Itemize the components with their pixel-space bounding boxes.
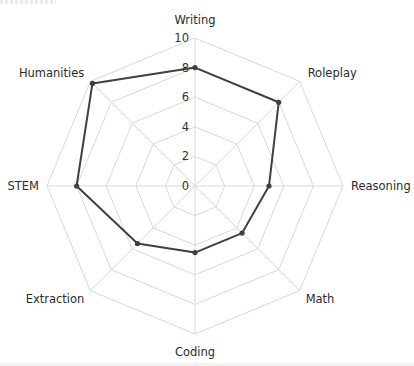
radial-tick-labels: 0 2 4 6 8 10 xyxy=(174,31,189,193)
data-point-marker xyxy=(276,100,281,105)
category-label-writing: Writing xyxy=(174,13,215,27)
category-label-math: Math xyxy=(306,292,335,306)
tick-label-10: 10 xyxy=(174,31,189,45)
category-label-coding: Coding xyxy=(175,345,215,359)
category-label-stem: STEM xyxy=(7,179,39,193)
series-markers xyxy=(74,65,281,255)
category-label-extraction: Extraction xyxy=(26,292,85,306)
radar-chart: 0 2 4 6 8 10 Writing Roleplay Reasoning … xyxy=(0,0,414,366)
category-label-humanities: Humanities xyxy=(19,66,84,80)
data-point-marker xyxy=(266,183,271,188)
data-point-marker xyxy=(135,241,140,246)
data-point-marker xyxy=(74,183,79,188)
tick-label-6: 6 xyxy=(182,90,189,104)
tick-label-8: 8 xyxy=(182,61,189,75)
data-point-marker xyxy=(192,65,197,70)
category-label-roleplay: Roleplay xyxy=(308,66,357,80)
tick-label-2: 2 xyxy=(182,149,189,163)
data-point-marker xyxy=(239,230,244,235)
data-series xyxy=(74,65,281,255)
series-line xyxy=(77,68,279,253)
tick-label-0: 0 xyxy=(182,179,189,193)
data-point-marker xyxy=(192,250,197,255)
category-label-reasoning: Reasoning xyxy=(351,179,411,193)
data-point-marker xyxy=(90,81,95,86)
tick-label-4: 4 xyxy=(182,120,189,134)
